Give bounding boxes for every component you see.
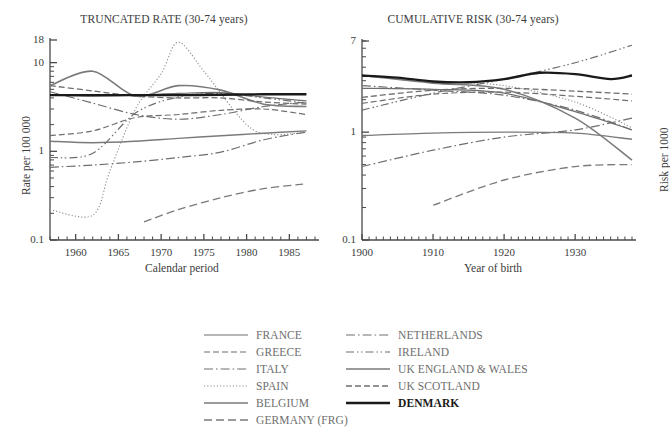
series-line	[50, 131, 306, 143]
chart-panel-cumulative-risk: CUMULATIVE RISK (30-74 years) Risk per 1…	[320, 0, 634, 290]
y-tick-label: 0.1	[10, 233, 44, 245]
legend-line-swatch	[345, 397, 391, 409]
legend-line-swatch	[203, 380, 249, 392]
chart-panel-truncated-rate: TRUNCATED RATE (30-74 years) Rate per 10…	[0, 0, 320, 290]
legend-line-swatch	[203, 414, 249, 426]
series-line	[50, 94, 306, 95]
y-tick-label: 10	[10, 56, 44, 68]
x-tick-label: 1900	[337, 246, 387, 258]
legend-line-swatch	[345, 329, 391, 341]
y-tick-label: 1	[10, 144, 44, 156]
legend-item[interactable]: FRANCE	[203, 326, 363, 343]
x-tick-label: 1920	[479, 246, 529, 258]
legend-item-label: NETHERLANDS	[398, 329, 483, 341]
legend-item-label: SPAIN	[256, 380, 289, 392]
y-tick-label: 1	[322, 125, 356, 137]
legend-item[interactable]: GREECE	[203, 343, 363, 360]
legend-item-label: UK ENGLAND & WALES	[398, 363, 528, 375]
legend-line-swatch	[203, 363, 249, 375]
legend-item-label: IRELAND	[398, 346, 449, 358]
legend-item[interactable]: IRELAND	[345, 343, 540, 360]
legend-line-swatch	[345, 363, 391, 375]
legend-item[interactable]: NETHERLANDS	[345, 326, 540, 343]
series-line	[362, 88, 632, 97]
legend-item-label: UK SCOTLAND	[398, 380, 480, 392]
series-line	[50, 93, 306, 157]
series-line	[50, 71, 306, 106]
panel-title-truncated-rate: TRUNCATED RATE (30-74 years)	[4, 13, 324, 25]
series-line	[144, 184, 306, 222]
legend-line-swatch	[203, 346, 249, 358]
y-tick-label: 0.1	[322, 233, 356, 245]
y-tick-label: 7	[322, 34, 356, 46]
x-axis-title-truncated-rate: Calendar period	[22, 262, 342, 274]
legend-column-left: FRANCEGREECEITALYSPAINBELGIUMGERMANY (FR…	[203, 326, 363, 428]
legend-line-swatch	[345, 380, 391, 392]
x-tick-label: 1930	[550, 246, 600, 258]
legend: FRANCEGREECEITALYSPAINBELGIUMGERMANY (FR…	[203, 326, 533, 426]
panel-title-cumulative-risk: CUMULATIVE RISK (30-74 years)	[316, 13, 630, 25]
legend-item-label: BELGIUM	[256, 397, 309, 409]
legend-column-right: NETHERLANDSIRELANDUK ENGLAND & WALESUK S…	[345, 326, 540, 411]
y-tick-label: 18	[10, 33, 44, 45]
legend-item[interactable]: UK ENGLAND & WALES	[345, 360, 540, 377]
series-line	[362, 76, 632, 128]
legend-item-label: ITALY	[256, 363, 289, 375]
legend-item[interactable]: UK SCOTLAND	[345, 377, 540, 394]
legend-line-swatch	[203, 397, 249, 409]
series-line	[50, 109, 306, 136]
legend-item-label: GERMANY (FRG)	[256, 414, 348, 426]
legend-item[interactable]: DENMARK	[345, 394, 540, 411]
y-axis-title-cumulative-risk: Risk per 1000	[658, 127, 670, 192]
legend-item[interactable]: GERMANY (FRG)	[203, 411, 363, 428]
series-line	[362, 118, 632, 166]
legend-item[interactable]: SPAIN	[203, 377, 363, 394]
legend-item-label: GREECE	[256, 346, 301, 358]
x-tick-label: 1910	[408, 246, 458, 258]
series-line	[50, 132, 306, 167]
x-tick-label: 1985	[264, 246, 314, 258]
series-line	[433, 165, 632, 206]
legend-item[interactable]: BELGIUM	[203, 394, 363, 411]
legend-item-label: DENMARK	[398, 397, 459, 409]
series-line	[50, 42, 306, 217]
legend-item[interactable]: ITALY	[203, 360, 363, 377]
legend-line-swatch	[203, 329, 249, 341]
x-axis-title-cumulative-risk: Year of birth	[336, 262, 650, 274]
legend-item-label: FRANCE	[256, 329, 302, 341]
series-line	[362, 73, 632, 83]
legend-line-swatch	[345, 346, 391, 358]
